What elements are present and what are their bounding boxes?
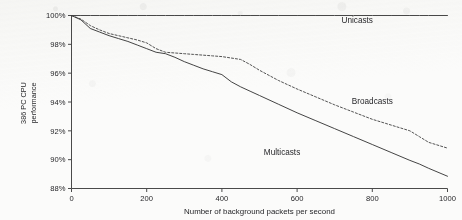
y-tick-label: 94% — [50, 98, 65, 107]
x-axis-tick-labels: 02004006008001000 — [69, 194, 456, 203]
y-tick-label: 92% — [50, 127, 65, 136]
chart-screenshot: 88%90%92%94%96%98%100% 02004006008001000… — [0, 0, 462, 220]
y-tick-label: 90% — [50, 155, 65, 164]
series-line-broadcasts — [72, 16, 448, 149]
x-axis-title: Number of background packets per second — [184, 207, 335, 216]
y-tick-label: 98% — [50, 40, 65, 49]
y-tick-label: 96% — [50, 69, 65, 78]
chart-series-group — [72, 16, 448, 177]
x-tick-label: 1000 — [439, 194, 456, 203]
series-label-unicasts: Unicasts — [342, 16, 373, 25]
series-label-broadcasts: Broadcasts — [352, 97, 393, 106]
y-tick-label: 88% — [50, 184, 65, 193]
x-axis-ticks — [72, 189, 448, 193]
y-tick-label: 100% — [46, 11, 66, 20]
y-axis-ticks — [68, 16, 72, 189]
series-line-multicasts — [72, 16, 448, 177]
y-axis-title: 386 PC CPU performance — [19, 82, 38, 124]
x-tick-label: 0 — [69, 194, 73, 203]
line-chart: 88%90%92%94%96%98%100% 02004006008001000… — [0, 0, 462, 220]
x-tick-label: 200 — [140, 194, 153, 203]
series-annotations: UnicastsBroadcastsMulticasts — [264, 16, 393, 156]
y-axis-title-line2: performance — [29, 83, 38, 124]
x-tick-label: 600 — [291, 194, 304, 203]
x-tick-label: 800 — [366, 194, 379, 203]
series-label-multicasts: Multicasts — [264, 148, 300, 157]
x-tick-label: 400 — [216, 194, 229, 203]
y-axis-tick-labels: 88%90%92%94%96%98%100% — [46, 11, 66, 193]
y-axis-title-line1: 386 PC CPU — [19, 82, 28, 124]
